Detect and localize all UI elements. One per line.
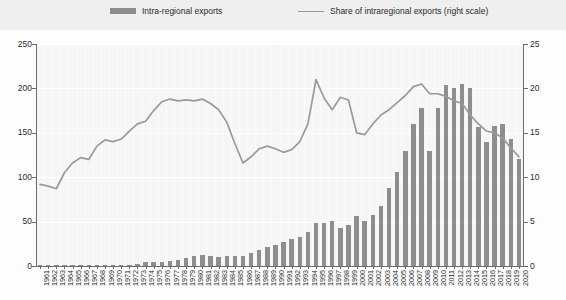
x-axis-tick: [40, 266, 41, 269]
y-axis-left-label: 150: [6, 128, 32, 137]
x-axis-tick: [397, 266, 398, 269]
bar-swatch-icon: [110, 8, 136, 14]
y-axis-left-label: 100: [6, 173, 32, 182]
x-axis-tick: [56, 266, 57, 269]
x-axis-label: 1977: [173, 270, 180, 286]
y-axis-right: [523, 44, 524, 266]
x-axis-tick: [381, 266, 382, 269]
x-axis-tick: [170, 266, 171, 269]
x-axis-tick: [503, 266, 504, 269]
x-axis-tick: [275, 266, 276, 269]
x-axis-tick: [73, 266, 74, 269]
x-axis-tick: [129, 266, 130, 269]
y-axis-left-tick: [32, 44, 36, 45]
y-axis-left-label: 50: [6, 217, 32, 226]
x-axis-label: 1968: [99, 270, 106, 286]
x-axis: [36, 266, 524, 267]
x-axis-tick: [211, 266, 212, 269]
x-axis-tick: [332, 266, 333, 269]
x-axis-tick: [81, 266, 82, 269]
x-axis-tick: [422, 266, 423, 269]
x-axis-label: 2019: [513, 270, 520, 286]
x-axis-label: 1969: [108, 270, 115, 286]
x-axis-label: 2004: [392, 270, 399, 286]
x-axis-tick: [251, 266, 252, 269]
x-axis-label: 1986: [246, 270, 253, 286]
x-axis-tick: [219, 266, 220, 269]
x-axis-label: 1962: [51, 270, 58, 286]
x-axis-tick: [284, 266, 285, 269]
x-axis-tick: [105, 266, 106, 269]
x-axis-tick: [495, 266, 496, 269]
x-axis-label: 1994: [311, 270, 318, 286]
x-axis-label: 1978: [181, 270, 188, 286]
y-axis-right-label: 5: [530, 217, 556, 226]
x-axis-label: 2013: [465, 270, 472, 286]
y-axis-right-label: 20: [530, 84, 556, 93]
line-series-share-of-intraregional-exports: [36, 44, 523, 266]
legend-item-line: Share of intraregional exports (right sc…: [298, 7, 488, 16]
x-axis-tick: [243, 266, 244, 269]
x-axis-tick: [478, 266, 479, 269]
y-axis-left-tick: [32, 222, 36, 223]
x-axis-label: 1996: [327, 270, 334, 286]
x-axis-label: 1987: [254, 270, 261, 286]
x-axis-tick: [146, 266, 147, 269]
x-axis-label: 1963: [59, 270, 66, 286]
x-axis-label: 1961: [43, 270, 50, 286]
legend-label-bar: Intra-regional exports: [142, 7, 222, 16]
x-axis-tick: [121, 266, 122, 269]
x-axis-label: 2014: [473, 270, 480, 286]
x-axis-label: 1997: [335, 270, 342, 286]
x-axis-label: 1993: [302, 270, 309, 286]
x-axis-tick: [340, 266, 341, 269]
x-axis-tick: [511, 266, 512, 269]
x-axis-tick: [470, 266, 471, 269]
x-axis-tick: [154, 266, 155, 269]
x-axis-label: 1971: [124, 270, 131, 286]
line-swatch-icon: [298, 11, 324, 12]
x-axis-tick: [202, 266, 203, 269]
x-axis-tick: [48, 266, 49, 269]
x-axis-tick: [89, 266, 90, 269]
x-axis-tick: [113, 266, 114, 269]
x-axis-tick: [162, 266, 163, 269]
x-axis-tick: [446, 266, 447, 269]
x-axis-tick: [389, 266, 390, 269]
y-axis-right-tick: [524, 222, 528, 223]
chart-legend: Intra-regional exports Share of intrareg…: [0, 0, 566, 30]
x-axis-tick: [462, 266, 463, 269]
y-axis-right-label: 15: [530, 128, 556, 137]
legend-label-line: Share of intraregional exports (right sc…: [330, 7, 488, 16]
x-axis-tick: [186, 266, 187, 269]
y-axis-left-tick: [32, 266, 36, 267]
legend-item-bar: Intra-regional exports: [110, 7, 222, 16]
x-axis-tick: [235, 266, 236, 269]
x-axis-label: 1970: [116, 270, 123, 286]
x-axis-label: 2005: [400, 270, 407, 286]
y-axis-right-label: 10: [530, 173, 556, 182]
x-axis-tick: [486, 266, 487, 269]
x-axis-tick: [97, 266, 98, 269]
x-axis-tick: [178, 266, 179, 269]
y-axis-right-label: 0: [530, 262, 556, 271]
y-axis-right-tick: [524, 266, 528, 267]
x-axis-label: 1988: [262, 270, 269, 286]
x-axis-tick: [292, 266, 293, 269]
x-axis-tick: [413, 266, 414, 269]
y-axis-left-tick: [32, 177, 36, 178]
x-axis-tick: [430, 266, 431, 269]
x-axis-label: 1976: [164, 270, 171, 286]
y-axis-left-tick: [32, 88, 36, 89]
x-axis-tick: [348, 266, 349, 269]
x-axis-tick: [365, 266, 366, 269]
x-axis-tick: [267, 266, 268, 269]
y-axis-right-tick: [524, 88, 528, 89]
x-axis-tick: [454, 266, 455, 269]
x-axis-label: 1995: [319, 270, 326, 286]
x-axis-label: 2012: [457, 270, 464, 286]
y-axis-left-label: 200: [6, 84, 32, 93]
y-axis-right-tick: [524, 133, 528, 134]
x-axis-tick: [227, 266, 228, 269]
x-axis-tick: [194, 266, 195, 269]
